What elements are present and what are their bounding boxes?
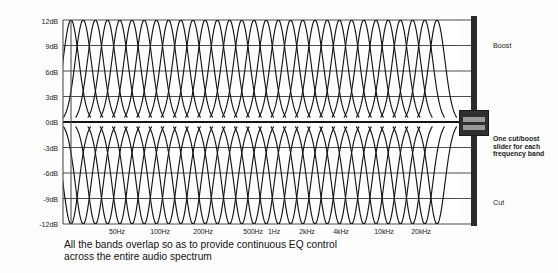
eq-diagram: 12dB 9dB 6dB 3dB 0dB -3dB -6dB -9dB -12d… [0, 0, 558, 273]
x-tick-label: 100Hz [150, 228, 170, 236]
fader-thumb[interactable] [459, 110, 489, 136]
figure-caption: All the bands overlap so as to provide c… [64, 239, 364, 262]
fader-cut-label: Cut [493, 199, 504, 207]
fader-thumb-grip-bar [463, 125, 485, 130]
x-tick-label: 10kHz [374, 228, 393, 236]
x-tick-label: 4kHz [333, 228, 349, 236]
fader-thumb-grip-bar [463, 117, 485, 122]
x-tick-label: 50Hz [109, 228, 125, 236]
x-tick-label: 1Hz [268, 228, 280, 236]
fader-annotation: One cut/boost slider for each frequency … [493, 135, 555, 158]
fader-boost-label: Boost [493, 42, 511, 50]
x-tick-label: 200Hz [193, 228, 213, 236]
x-tick-label: 500Hz [243, 228, 263, 236]
cut-boost-fader[interactable] [466, 16, 482, 226]
x-tick-label: 2kHz [299, 228, 315, 236]
x-tick-label: 20kHz [411, 228, 430, 236]
